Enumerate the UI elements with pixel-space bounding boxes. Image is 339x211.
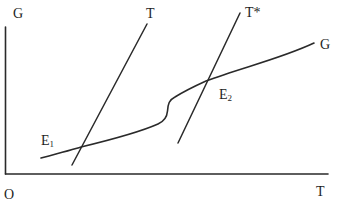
e2-base: E: [219, 87, 228, 102]
t-star-line-label: T*: [245, 6, 261, 20]
g-curve-label: G: [320, 38, 330, 52]
g-curve: [41, 43, 314, 158]
t-line-label: T: [146, 7, 155, 21]
equilibrium-e1-label: E1: [41, 134, 54, 149]
origin-label: O: [4, 188, 14, 202]
t-star-line: [178, 13, 240, 143]
e1-subscript: 1: [50, 139, 55, 149]
e2-subscript: 2: [228, 93, 233, 103]
x-axis-label: T: [316, 185, 325, 199]
equilibrium-e2-label: E2: [219, 88, 232, 103]
e1-base: E: [41, 133, 50, 148]
y-axis-label: G: [13, 7, 23, 21]
diagram-canvas: [0, 0, 339, 211]
t-line: [72, 24, 147, 165]
